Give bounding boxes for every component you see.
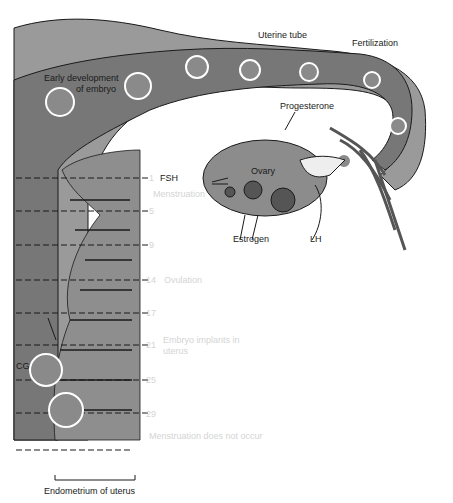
label-uterine-tube: Uterine tube [258, 30, 307, 40]
label-of-embryo: of embryo [76, 84, 116, 94]
day-1: 1 [149, 173, 154, 183]
label-progesterone: Progesterone [280, 101, 334, 111]
label-fsh: FSH [160, 173, 178, 183]
day-21: 21 [146, 340, 156, 350]
day-5: 5 [149, 206, 154, 216]
ovary [203, 140, 327, 216]
implanting-embryo [49, 393, 83, 427]
note-implant: Embryo implants in [163, 335, 240, 345]
day-29: 29 [146, 409, 156, 419]
day-17: 17 [146, 308, 156, 318]
label-fertilization: Fertilization [352, 38, 398, 48]
note-uterus: uterus [163, 346, 188, 356]
day-9: 9 [149, 240, 154, 250]
label-estrogen: Estrogen [233, 234, 269, 244]
note-menstruation: Menstruation [153, 189, 205, 199]
label-lh: LH [310, 234, 322, 244]
day-25: 25 [146, 375, 156, 385]
note-ovulation: Ovulation [164, 275, 202, 285]
label-ovary: Ovary [251, 166, 275, 176]
embryo-morula-1 [46, 88, 74, 116]
ovum-in-tube [390, 118, 406, 134]
label-endometrium: Endometrium of uterus [44, 486, 135, 496]
embryo-4cell [186, 56, 208, 78]
label-early-development: Early development [44, 73, 119, 83]
day-14: 14 [146, 275, 156, 285]
note-no-menstruation: Menstruation does not occur [149, 431, 263, 441]
label-cg: CG [16, 361, 30, 371]
embryo-2cell-b [300, 63, 318, 81]
embryo-2cell-a [240, 60, 260, 80]
blastocyst [30, 354, 62, 386]
embryo-morula-2 [125, 73, 151, 99]
zygote [364, 72, 380, 88]
